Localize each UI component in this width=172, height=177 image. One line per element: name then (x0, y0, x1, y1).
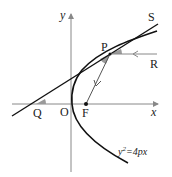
equation-rest: =4px (126, 146, 148, 157)
x-axis-label: x (150, 105, 157, 119)
point-s-label: S (148, 10, 155, 24)
parabola-diagram: y x O F Q P R S y2=4px (0, 0, 172, 177)
point-r-label: R (150, 57, 158, 71)
point-q-label: Q (33, 106, 42, 120)
y-axis-label: y (59, 8, 66, 22)
point-p (109, 53, 112, 56)
focus-label: F (82, 106, 89, 120)
parabola-equation: y2=4px (117, 145, 148, 157)
tangent-line (12, 24, 158, 116)
point-p-label: P (101, 40, 108, 54)
origin-label: O (60, 105, 69, 119)
